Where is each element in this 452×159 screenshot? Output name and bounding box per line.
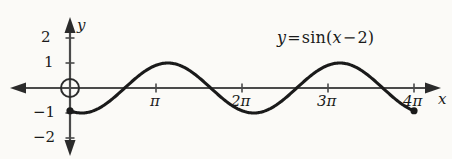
- equation-close-paren: ): [368, 28, 374, 47]
- y-tick-label-neg2: −2: [33, 130, 55, 145]
- x-tick-label-4pi: 4π: [403, 94, 422, 109]
- y-tick-label-1: 1: [44, 55, 54, 70]
- equation-arg-variable: x: [333, 28, 342, 47]
- x-tick-label-pi: π: [150, 94, 160, 109]
- plot-canvas: [0, 0, 452, 159]
- equation-arg-number: 2: [357, 28, 367, 47]
- equation-function: sin: [302, 28, 326, 47]
- x-axis-label: x: [438, 92, 446, 107]
- x-tick-label-2pi: 2π: [231, 94, 250, 109]
- equation-lhs: y: [277, 28, 286, 47]
- x-tick-label-3pi: 3π: [317, 94, 336, 109]
- sine-graph-figure: 2 1 −1 −2 π 2π 3π 4π y x y=sin(x−2): [0, 0, 452, 159]
- y-axis-label: y: [77, 18, 85, 33]
- y-tick-label-neg1: −1: [33, 105, 55, 120]
- equation-minus: −: [342, 28, 358, 47]
- equation-annotation: y=sin(x−2): [277, 30, 374, 46]
- equation-equals: =: [286, 28, 302, 47]
- y-tick-label-2: 2: [41, 30, 51, 45]
- left-endpoint-dot: [66, 107, 73, 114]
